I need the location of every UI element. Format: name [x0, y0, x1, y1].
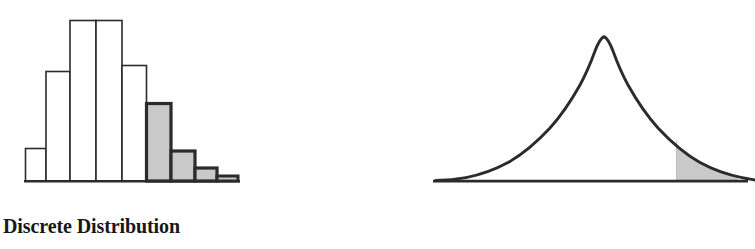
- histogram-bar-2: [46, 72, 70, 182]
- histogram-unshaded-bars: [26, 21, 147, 182]
- continuous-curve-plot: [400, 0, 755, 200]
- continuous-distribution-panel: Continuous Distribution: [400, 0, 755, 249]
- histogram-bar-5: [122, 66, 147, 182]
- histogram-bar-7-shaded: [171, 151, 195, 181]
- histogram-bar-3: [70, 21, 96, 182]
- histogram-shaded-bars: [147, 104, 239, 182]
- normal-curve-shaded-tail: [436, 37, 755, 181]
- histogram-bar-6-shaded: [147, 104, 172, 182]
- normal-distribution-curve: [436, 37, 755, 181]
- normal-curve-svg: [400, 0, 755, 200]
- discrete-distribution-caption: Discrete Distribution: [3, 216, 180, 236]
- histogram-bar-4: [96, 21, 122, 182]
- discrete-histogram-svg: [0, 0, 400, 200]
- discrete-histogram-plot: [0, 0, 400, 200]
- distribution-comparison-figure: Discrete Distribution: [0, 0, 755, 249]
- discrete-distribution-panel: Discrete Distribution: [0, 0, 400, 249]
- histogram-bar-1: [26, 149, 47, 182]
- histogram-bar-8-shaded: [195, 168, 217, 181]
